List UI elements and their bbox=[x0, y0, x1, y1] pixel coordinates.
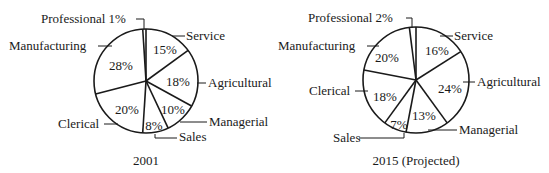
label-agricultural-2015: Agricultural bbox=[477, 74, 541, 89]
label-manufacturing-2001: Manufacturing bbox=[9, 38, 87, 53]
slice-pct-manufacturing-2001: 28% bbox=[109, 58, 133, 73]
pie-chart-2015-projected: 16% 24% 13% 7% 18% 20% Professional 2% M… bbox=[278, 10, 541, 168]
slice-pct-managerial-2001: 10% bbox=[161, 102, 185, 117]
label-agricultural-2001: Agricultural bbox=[208, 75, 272, 90]
slice-pct-service-2015: 16% bbox=[425, 43, 449, 58]
slice-pct-managerial-2015: 13% bbox=[412, 108, 436, 123]
leader-professional-2001 bbox=[136, 19, 144, 29]
label-professional-2001: Professional 1% bbox=[41, 11, 126, 26]
slice-pct-agricultural-2001: 18% bbox=[166, 74, 190, 89]
leader-sales-2001 bbox=[155, 134, 177, 138]
slice-pct-agricultural-2015: 24% bbox=[438, 81, 462, 96]
label-professional-2015: Professional 2% bbox=[308, 10, 393, 25]
pie-chart-2001: 15% 18% 10% 8% 20% 28% Professional 1% M… bbox=[9, 11, 272, 168]
label-manufacturing-2015: Manufacturing bbox=[278, 38, 356, 53]
label-clerical-2015: Clerical bbox=[309, 83, 351, 98]
leader-sales-2015 bbox=[359, 133, 404, 138]
slice-pct-sales-2001: 8% bbox=[145, 118, 163, 133]
pie-charts-figure: 15% 18% 10% 8% 20% 28% Professional 1% M… bbox=[0, 0, 549, 173]
slice-pct-sales-2015: 7% bbox=[390, 117, 408, 132]
chart-caption-2015: 2015 (Projected) bbox=[372, 153, 459, 168]
label-service-2015: Service bbox=[454, 28, 493, 43]
label-clerical-2001: Clerical bbox=[58, 116, 100, 131]
slice-pct-clerical-2001: 20% bbox=[115, 102, 139, 117]
chart-caption-2001: 2001 bbox=[133, 153, 159, 168]
label-sales-2015: Sales bbox=[333, 130, 360, 145]
slice-pct-manufacturing-2015: 20% bbox=[375, 50, 399, 65]
label-managerial-2001: Managerial bbox=[209, 114, 269, 129]
label-service-2001: Service bbox=[186, 28, 225, 43]
slice-pct-clerical-2015: 18% bbox=[373, 89, 397, 104]
label-sales-2001: Sales bbox=[179, 129, 206, 144]
label-managerial-2015: Managerial bbox=[459, 122, 519, 137]
slice-pct-service-2001: 15% bbox=[153, 42, 177, 57]
